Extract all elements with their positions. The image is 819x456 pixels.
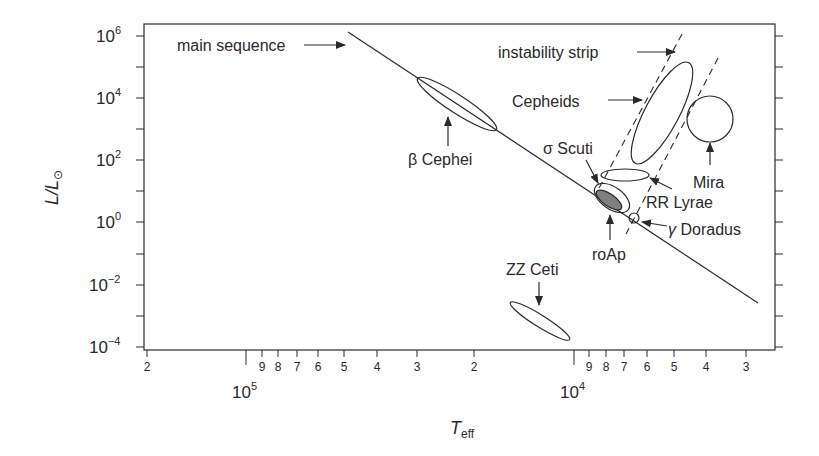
svg-text:4: 4 — [703, 360, 710, 374]
zz-ceti-region — [507, 297, 573, 344]
beta-cephei-label: β Cephei — [408, 151, 472, 168]
delta-scuti-label: σ Scuti — [543, 140, 593, 157]
svg-text:8: 8 — [603, 360, 610, 374]
svg-text:7: 7 — [621, 360, 628, 374]
svg-text:104: 104 — [560, 380, 585, 402]
mira-label: Mira — [693, 174, 724, 191]
svg-text:104: 104 — [96, 86, 121, 108]
roap-label: roAp — [592, 246, 626, 263]
svg-text:106: 106 — [96, 24, 121, 46]
svg-text:6: 6 — [644, 360, 651, 374]
y-axis-labels: 106 104 102 100 10−2 10−4 — [89, 24, 121, 357]
rr-lyrae-label: RR Lyrae — [646, 194, 713, 211]
svg-text:3: 3 — [743, 360, 750, 374]
svg-text:2: 2 — [144, 360, 151, 374]
svg-text:8: 8 — [275, 360, 282, 374]
annotation-labels: main sequence instability strip Cepheids… — [177, 37, 741, 278]
x-axis-major-labels: 105 104 — [232, 380, 585, 402]
svg-text:105: 105 — [232, 380, 257, 402]
cepheids-label: Cepheids — [512, 93, 580, 110]
x-axis-ticks — [147, 350, 746, 365]
svg-text:102: 102 — [96, 148, 121, 170]
svg-text:3: 3 — [414, 360, 421, 374]
svg-text:100: 100 — [96, 210, 121, 232]
svg-text:10−4: 10−4 — [89, 335, 120, 357]
gamma-doradus-label: γ Doradus — [668, 221, 741, 238]
svg-text:2: 2 — [471, 360, 478, 374]
hr-diagram-chart: 106 104 102 100 10−2 10−4 L/L⊙ 2 9 8 7 — [0, 0, 819, 456]
y-axis-title: L/L⊙ — [42, 170, 65, 205]
y-axis-ticks — [136, 36, 783, 347]
svg-text:9: 9 — [259, 360, 266, 374]
delta-scuti-arrow — [586, 160, 598, 183]
svg-text:10−2: 10−2 — [89, 273, 120, 295]
svg-text:4: 4 — [374, 360, 381, 374]
instability-strip-label: instability strip — [498, 44, 599, 61]
zz-ceti-label: ZZ Ceti — [506, 261, 558, 278]
svg-text:9: 9 — [586, 360, 593, 374]
svg-text:L/L⊙: L/L⊙ — [42, 170, 65, 205]
svg-text:5: 5 — [671, 360, 678, 374]
gamma-doradus-arrow — [642, 222, 667, 226]
cepheids-region — [620, 55, 704, 172]
svg-text:5: 5 — [341, 360, 348, 374]
mira-region — [687, 96, 733, 142]
svg-text:6: 6 — [315, 360, 322, 374]
svg-text:7: 7 — [294, 360, 301, 374]
x-axis-minor-labels: 2 9 8 7 6 5 4 3 2 9 8 7 6 5 4 3 — [144, 360, 750, 374]
rr-lyrae-region — [601, 169, 649, 181]
main-sequence-label: main sequence — [177, 37, 286, 54]
plot-frame — [144, 24, 775, 350]
x-axis-title: Teff — [450, 418, 475, 441]
rr-lyrae-arrow — [650, 178, 672, 189]
